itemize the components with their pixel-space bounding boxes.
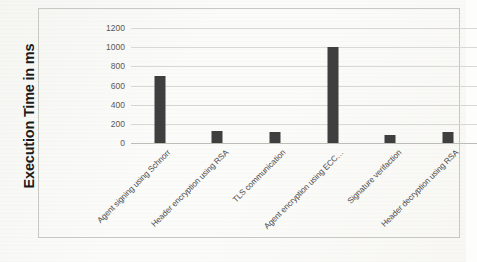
bar[interactable]: [154, 76, 165, 143]
bar-slot: [419, 28, 477, 143]
bar[interactable]: [385, 135, 396, 143]
y-tick-label-200: 200: [111, 119, 125, 129]
y-tick-label-1200: 1200: [106, 23, 125, 33]
x-axis-category-labels: Agent signing using SchnorrHeader encryp…: [131, 143, 477, 248]
bar-series: [131, 28, 477, 143]
y-tick-label-800: 800: [111, 61, 125, 71]
bar[interactable]: [270, 132, 281, 144]
bar[interactable]: [212, 131, 223, 143]
bar-slot: [189, 28, 247, 143]
x-axis-label: Signature verifaction: [345, 148, 403, 206]
bar-slot: [304, 28, 362, 143]
bar-slot: [131, 28, 189, 143]
bar[interactable]: [443, 132, 454, 144]
y-axis-title: Execution Time in ms: [21, 31, 37, 201]
bar-slot: [246, 28, 304, 143]
y-tick-label-600: 600: [111, 81, 125, 91]
chart-frame: 020040060080010001200 Agent signing usin…: [38, 8, 460, 238]
x-axis-label: TLS communication: [231, 148, 287, 204]
y-tick-label-0: 0: [120, 138, 125, 148]
bar[interactable]: [327, 47, 338, 143]
bar-slot: [362, 28, 420, 143]
y-tick-label-1000: 1000: [106, 42, 125, 52]
plot-area: 020040060080010001200 Agent signing usin…: [131, 28, 477, 143]
y-tick-label-400: 400: [111, 100, 125, 110]
